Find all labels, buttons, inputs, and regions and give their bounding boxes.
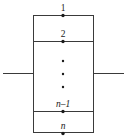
ellipsis-dot-top bbox=[62, 60, 64, 62]
multi-terminal-block-diagram: 1 2 n–1 n bbox=[0, 0, 128, 139]
ellipsis-dot-bottom bbox=[62, 86, 64, 88]
terminal-dot-n-minus-1 bbox=[61, 110, 64, 113]
terminal-dot-n bbox=[61, 132, 64, 135]
ellipsis-dot-middle bbox=[62, 73, 64, 75]
terminal-label-1: 1 bbox=[61, 3, 66, 13]
terminal-dot-2 bbox=[61, 40, 64, 43]
diagram-canvas: 1 2 n–1 n bbox=[0, 0, 128, 139]
terminal-label-n-minus-1: n–1 bbox=[56, 99, 70, 109]
terminal-dot-1 bbox=[61, 14, 64, 17]
terminal-label-n: n bbox=[61, 121, 66, 131]
terminal-label-2: 2 bbox=[61, 29, 66, 39]
